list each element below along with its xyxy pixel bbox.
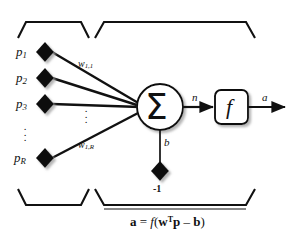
input-node-pR [36,148,54,168]
bias-node [151,161,169,181]
input-bracket-top [18,22,89,38]
equation-close-paren: ) [201,214,205,229]
summation-symbol: Σ [145,89,168,125]
input-label-p1: p1 [16,45,27,60]
transfer-function-symbol: f [226,96,232,118]
input-label-p3: p3 [16,97,27,112]
equation-bias: b [193,214,200,229]
bias-input-label: -1 [153,184,161,194]
input-ellipsis: ... [20,124,30,141]
output-label: a [262,92,268,103]
input-node-p1 [36,42,54,62]
equation-output: a [130,214,137,229]
input-bracket-bottom [18,189,89,205]
equation-equals: = [140,214,147,229]
input-node-p3 [36,94,54,114]
weight-connections [52,52,140,158]
weight-ellipsis: ... [81,106,91,123]
equation-weight-vector: w [158,214,167,229]
input-label-p2: p2 [16,71,27,86]
input-label-pR: pR [14,151,26,166]
input-node-p2 [36,68,54,88]
neuron-bracket-bottom [95,189,255,205]
neuron-bracket-top [95,22,255,38]
weight-label-w11: w1,1 [78,59,93,70]
bias-label: b [164,137,170,148]
output-equation: a = f(wTp – b) [130,215,205,228]
net-input-label: n [192,92,198,103]
weight-label-w1R: w1,R [78,140,94,151]
neuron-diagram: p1 p2 p3 ... pR w1,1 ... w1,R Σ n f a b … [0,0,298,240]
